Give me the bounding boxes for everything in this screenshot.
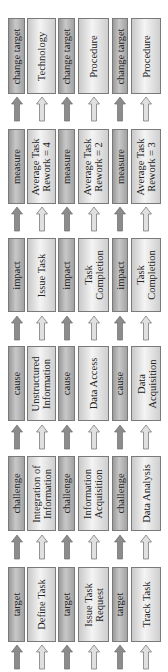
stage-label-change-target: change target [8, 18, 25, 94]
stage-label-impact: impact [8, 238, 25, 312]
arrow-up-icon [11, 315, 23, 341]
stage-label-challenge: challenge [58, 456, 75, 531]
box-text: Integration ofInformation [31, 465, 53, 522]
node-change-target: Procedure [78, 18, 109, 94]
box-text: challenge [11, 473, 22, 513]
node-change-target: Technology [27, 18, 56, 94]
arrow-up-icon [88, 534, 100, 560]
node-cause: DataAcquisition [131, 346, 161, 421]
arrow-up-icon [140, 534, 152, 560]
box-text: measure [61, 149, 72, 184]
arrow-up-icon [114, 206, 126, 232]
box-text: impact [115, 261, 126, 290]
box-text-line: Rework = 2 [94, 138, 105, 195]
box-text: UnstructuredInformation [31, 356, 53, 411]
arrow-up-icon [140, 424, 152, 450]
box-text-line: Rework = 3 [146, 138, 157, 195]
box-text-line: Unstructured [31, 356, 42, 411]
node-target: Track Task [131, 567, 161, 642]
arrow-up-icon [61, 206, 73, 232]
box-text: InformationAcquisition [83, 468, 105, 518]
box-text: challenge [61, 473, 72, 513]
box-text: measure [11, 149, 22, 184]
arrow-up-icon [61, 424, 73, 450]
box-text-line: Completion [146, 250, 157, 300]
stage-label-impact: impact [58, 238, 75, 312]
stage-label-challenge: challenge [112, 456, 128, 531]
box-text: impact [61, 261, 72, 290]
box-text: Issue Task [36, 253, 47, 297]
box-text: Define Task [36, 579, 47, 630]
node-target: Define Task [27, 567, 56, 642]
arrow-up-icon [114, 315, 126, 341]
box-text-line: Average Task [135, 138, 146, 195]
arrow-up-icon [140, 315, 152, 341]
box-text: Procedure [88, 35, 99, 78]
arrow-up-icon [114, 424, 126, 450]
box-text: Technology [36, 31, 47, 80]
stage-label-target: target [8, 567, 25, 642]
node-measure: Average TaskRework = 3 [131, 129, 161, 204]
stage-label-measure: measure [8, 129, 25, 204]
box-text: cause [115, 372, 126, 395]
box-text: TaskCompletion [83, 250, 105, 300]
arrow-up-icon [88, 644, 100, 670]
box-text: Issue TaskRequest [83, 583, 105, 627]
stage-label-cause: cause [58, 346, 75, 421]
box-text-line: Average Task [83, 138, 94, 195]
arrow-up-icon [61, 96, 73, 122]
box-text: Data Access [88, 358, 99, 410]
arrow-up-icon [88, 206, 100, 232]
node-measure: Average TaskRework = 2 [78, 129, 109, 204]
stage-label-challenge: challenge [8, 456, 25, 531]
stage-label-cause: cause [112, 346, 128, 421]
box-text-line: Acquisition [146, 359, 157, 408]
node-challenge: Integration ofInformation [27, 456, 56, 531]
box-text: Procedure [141, 35, 152, 78]
arrow-up-icon [36, 96, 48, 122]
node-measure: Average TaskRework = 4 [27, 129, 56, 204]
arrow-up-icon [61, 534, 73, 560]
arrow-up-icon [61, 644, 73, 670]
box-text-line: Rework = 4 [42, 138, 53, 195]
box-text-line: Average Task [31, 138, 42, 195]
node-cause: Data Access [78, 346, 109, 421]
arrow-up-icon [140, 644, 152, 670]
arrow-up-icon [11, 206, 23, 232]
node-change-target: Procedure [131, 18, 161, 94]
arrow-up-icon [11, 424, 23, 450]
arrow-up-icon [36, 315, 48, 341]
box-text-line: Task [83, 250, 94, 300]
box-text: change target [61, 28, 72, 84]
box-text-line: Request [94, 583, 105, 627]
arrow-up-icon [11, 534, 23, 560]
box-text: challenge [115, 473, 126, 513]
box-text: DataAcquisition [135, 359, 157, 408]
box-text-line: Data [135, 359, 146, 408]
arrow-up-icon [114, 96, 126, 122]
node-impact: Issue Task [27, 238, 56, 312]
arrow-up-icon [140, 206, 152, 232]
node-challenge: Data Analysis [131, 456, 161, 531]
stage-label-change-target: change target [58, 18, 75, 94]
box-text-line: Issue Task [83, 583, 94, 627]
arrow-up-icon [61, 315, 73, 341]
arrow-up-icon [114, 644, 126, 670]
box-text-line: Task [135, 250, 146, 300]
stage-label-cause: cause [8, 346, 25, 421]
box-text: Average TaskRework = 2 [83, 138, 105, 195]
arrow-up-icon [36, 534, 48, 560]
box-text: TaskCompletion [135, 250, 157, 300]
box-text: target [11, 593, 22, 617]
arrow-up-icon [36, 644, 48, 670]
box-text-line: Information [42, 465, 53, 522]
arrow-up-icon [11, 96, 23, 122]
node-cause: UnstructuredInformation [27, 346, 56, 421]
box-text: change target [11, 28, 22, 84]
box-text-line: Acquisition [94, 468, 105, 518]
stage-label-measure: measure [58, 129, 75, 204]
node-target: Issue TaskRequest [78, 567, 109, 642]
box-text: cause [11, 372, 22, 395]
box-text: cause [61, 372, 72, 395]
stage-label-target: target [112, 567, 128, 642]
